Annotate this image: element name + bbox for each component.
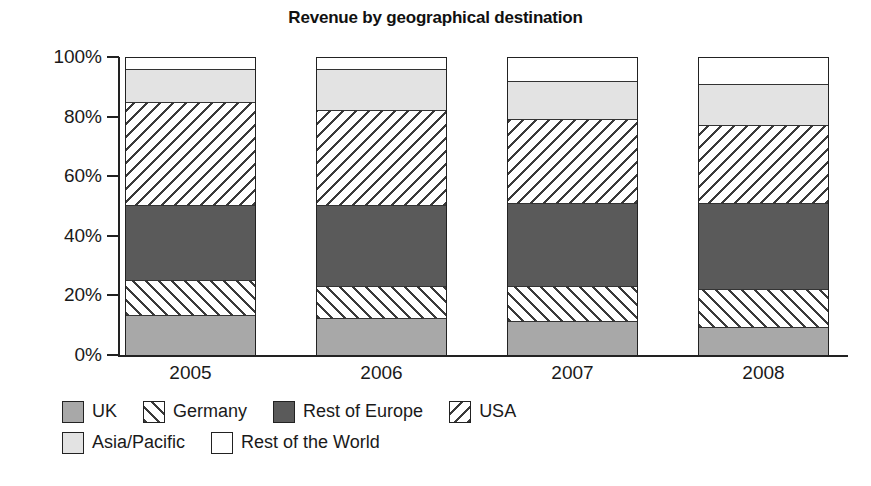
bar-segment-restoftheworld[interactable]: [317, 58, 446, 70]
y-axis-tick-label: 80%: [30, 106, 102, 128]
bar-segment-asiapacific[interactable]: [126, 70, 255, 103]
legend-swatch-asiapacific: [62, 432, 84, 454]
legend-swatch-usa: [449, 401, 471, 423]
y-axis-tick-label: 20%: [30, 284, 102, 306]
legend-item-uk[interactable]: UK: [62, 401, 117, 423]
y-axis-tick: [107, 235, 119, 237]
legend-item-restofeurope[interactable]: Rest of Europe: [273, 401, 423, 423]
x-axis-label-2006: 2006: [316, 362, 447, 384]
legend-item-asiapacific[interactable]: Asia/Pacific: [62, 432, 185, 454]
y-axis-tick: [107, 175, 119, 177]
y-axis-tick-label: 40%: [30, 225, 102, 247]
legend-label: USA: [479, 401, 516, 422]
bar-segment-asiapacific[interactable]: [317, 70, 446, 112]
plot-area: [125, 57, 848, 355]
bar-segment-asiapacific[interactable]: [508, 82, 637, 121]
y-axis-tick-label: 60%: [30, 165, 102, 187]
y-axis-tick: [107, 116, 119, 118]
bar-segment-germany[interactable]: [699, 290, 828, 329]
bar-segment-uk[interactable]: [699, 328, 828, 355]
x-axis-label-2008: 2008: [698, 362, 829, 384]
legend-label: Asia/Pacific: [92, 432, 185, 453]
bar-segment-usa[interactable]: [699, 126, 828, 203]
bar-segment-germany[interactable]: [508, 287, 637, 323]
stacked-bar-chart: Revenue by geographical destination 100%…: [0, 0, 871, 486]
legend-swatch-restofeurope: [273, 401, 295, 423]
legend-swatch-restoftheworld: [211, 432, 233, 454]
bar-segment-restoftheworld[interactable]: [126, 58, 255, 70]
y-axis-tick-label: 100%: [30, 46, 102, 68]
legend-swatch-germany: [143, 401, 165, 423]
legend-item-germany[interactable]: Germany: [143, 401, 247, 423]
bar-segment-uk[interactable]: [317, 319, 446, 355]
bar-segment-restofeurope[interactable]: [699, 204, 828, 290]
bar-2008[interactable]: [698, 57, 829, 355]
legend-item-restoftheworld[interactable]: Rest of the World: [211, 432, 380, 454]
x-axis-label-2005: 2005: [125, 362, 256, 384]
bar-segment-restofeurope[interactable]: [126, 206, 255, 280]
y-axis-tick-label: 0%: [30, 344, 102, 366]
y-axis-tick: [107, 354, 119, 356]
bar-segment-usa[interactable]: [317, 111, 446, 206]
bar-2006[interactable]: [316, 57, 447, 355]
chart-title: Revenue by geographical destination: [0, 8, 871, 28]
legend-label: UK: [92, 401, 117, 422]
bar-segment-usa[interactable]: [126, 103, 255, 207]
y-axis-line: [118, 57, 120, 356]
bar-segment-uk[interactable]: [508, 322, 637, 355]
legend-label: Rest of Europe: [303, 401, 423, 422]
bar-segment-restofeurope[interactable]: [508, 204, 637, 287]
y-axis-tick: [107, 56, 119, 58]
legend-swatch-uk: [62, 401, 84, 423]
x-axis-label-2007: 2007: [507, 362, 638, 384]
legend-item-usa[interactable]: USA: [449, 401, 516, 423]
legend-label: Germany: [173, 401, 247, 422]
bar-segment-germany[interactable]: [126, 281, 255, 317]
bar-segment-asiapacific[interactable]: [699, 85, 828, 127]
bar-segment-restoftheworld[interactable]: [699, 58, 828, 85]
bar-segment-uk[interactable]: [126, 316, 255, 355]
y-axis-tick: [107, 294, 119, 296]
legend-label: Rest of the World: [241, 432, 380, 453]
bar-2007[interactable]: [507, 57, 638, 355]
legend-row: Asia/PacificRest of the World: [62, 427, 762, 458]
chart-legend: UKGermanyRest of EuropeUSAAsia/PacificRe…: [62, 396, 762, 458]
bar-segment-restofeurope[interactable]: [317, 206, 446, 286]
bar-2005[interactable]: [125, 57, 256, 355]
legend-row: UKGermanyRest of EuropeUSA: [62, 396, 762, 427]
bar-segment-restoftheworld[interactable]: [508, 58, 637, 82]
x-axis-line: [118, 355, 848, 357]
bar-segment-usa[interactable]: [508, 120, 637, 203]
bar-segment-germany[interactable]: [317, 287, 446, 320]
